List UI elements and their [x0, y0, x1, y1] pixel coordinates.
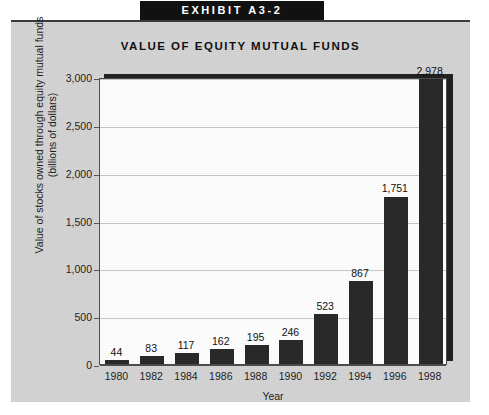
bar [279, 340, 303, 364]
y-axis-tick-mark [94, 79, 99, 80]
x-axis-tick-label: 1980 [105, 370, 128, 382]
bar-value-label: 2,978 [416, 65, 442, 77]
bar [245, 345, 269, 364]
plot-area [100, 79, 446, 364]
x-axis-tick-label: 1990 [279, 370, 302, 382]
bar-value-label: 867 [351, 267, 369, 279]
x-axis-tick-label: 1998 [418, 370, 441, 382]
bar-value-label: 44 [111, 346, 123, 358]
bar-value-label: 162 [212, 335, 230, 347]
bar [105, 360, 129, 364]
bar [210, 349, 234, 364]
bar-value-label: 83 [145, 342, 157, 354]
x-axis-tick-label: 1996 [383, 370, 406, 382]
y-axis-tick-label: 2,500 [66, 120, 92, 132]
x-axis-tick-label: 1984 [174, 370, 197, 382]
bar [384, 197, 408, 365]
y-axis-tick-label: 500 [74, 311, 92, 323]
chart-panel: VALUE OF EQUITY MUTUAL FUNDS Value of st… [11, 20, 470, 402]
bar [419, 79, 443, 364]
x-axis-tick-label: 1988 [244, 370, 267, 382]
y-axis-tick-mark [94, 270, 99, 271]
x-axis-tick-label: 1994 [348, 370, 371, 382]
bar [140, 356, 164, 364]
chart-title: VALUE OF EQUITY MUTUAL FUNDS [11, 40, 470, 52]
exhibit-banner: EXHIBIT A3-2 [140, 1, 324, 20]
bar-value-label: 246 [282, 326, 300, 338]
gridline [100, 365, 446, 366]
y-axis-tick-label: 0 [86, 359, 92, 371]
bar-value-label: 523 [316, 300, 334, 312]
y-axis-tick-label: 3,000 [66, 72, 92, 84]
y-axis-tick-mark [94, 366, 99, 367]
bar-value-label: 195 [247, 331, 265, 343]
y-axis-tick-mark [94, 175, 99, 176]
y-axis-tick-labels: 05001,0001,5002,0002,5003,000 [47, 78, 92, 365]
gridline [100, 79, 446, 80]
y-axis-title-line1: Value of stocks owned through equity mut… [33, 17, 45, 254]
bar [349, 281, 373, 364]
gridline [100, 127, 446, 128]
bar-value-label: 1,751 [382, 182, 408, 194]
x-axis-tick-label: 1992 [314, 370, 337, 382]
y-axis-tick-label: 2,000 [66, 168, 92, 180]
x-axis-tick-label: 1986 [209, 370, 232, 382]
y-axis-tick-label: 1,500 [66, 216, 92, 228]
y-axis-tick-mark [94, 318, 99, 319]
bar-value-label: 117 [178, 339, 195, 351]
x-axis-title: Year [99, 390, 447, 402]
gridline [100, 175, 446, 176]
y-axis-tick-mark [94, 223, 99, 224]
y-axis-tick-label: 1,000 [66, 263, 92, 275]
y-axis-tick-mark [94, 127, 99, 128]
bar [175, 353, 199, 364]
bar [314, 314, 338, 364]
x-axis-tick-label: 1982 [140, 370, 163, 382]
plot-frame [99, 78, 447, 365]
